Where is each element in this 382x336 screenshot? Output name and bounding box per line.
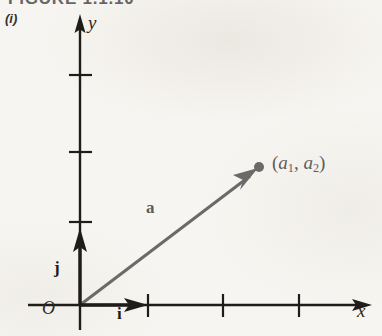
unit-vector-i-label: i: [117, 304, 122, 324]
position-vector-line: [80, 176, 250, 305]
coordinate-comma: ,: [294, 152, 304, 173]
unit-vector-j-label: j: [54, 258, 60, 278]
terminal-point-dot: [254, 162, 264, 172]
origin-label: O: [42, 298, 55, 319]
x-axis-label: x: [357, 300, 365, 322]
point-coordinates-label: (a1, a2): [272, 152, 325, 176]
position-vector-label: a: [146, 198, 155, 218]
component-1-base: a: [278, 152, 288, 173]
vector-figure: FIGURE 1.1.10 (i) y x O i j a (a1, a2: [0, 0, 382, 336]
component-2-base: a: [303, 152, 313, 173]
y-axis-label: y: [88, 12, 96, 34]
close-paren: ): [319, 152, 325, 173]
